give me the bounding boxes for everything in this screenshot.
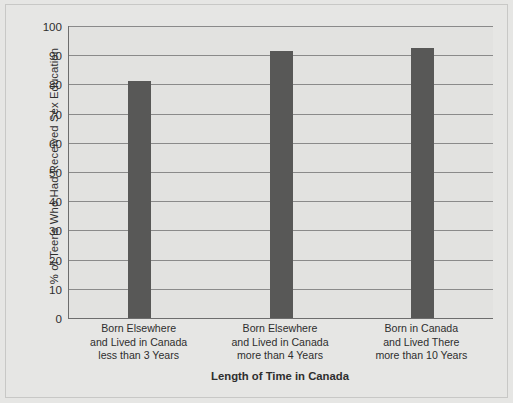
y-tick-label-60: 60 [22,136,62,149]
y-tick-label-30: 30 [22,224,62,237]
x-axis-category-labels: Born Elsewhereand Lived in Canadaless th… [68,322,492,366]
bar-2 [411,48,434,318]
category-label-line: Born Elsewhere [68,322,209,336]
category-label-2: Born in Canadaand Lived Theremore than 1… [351,322,492,366]
y-tick-label-10: 10 [22,282,62,295]
y-tick-label-80: 80 [22,78,62,91]
bar-0 [128,81,151,318]
category-label-1: Born Elsewhereand Lived in Canadamore th… [209,322,350,366]
y-tick-label-100: 100 [22,20,62,33]
category-label-line: more than 10 Years [351,349,492,363]
bar-1 [270,51,293,318]
y-tick-label-0: 0 [22,312,62,325]
y-tick-label-50: 50 [22,166,62,179]
x-axis-title: Length of Time in Canada [68,370,492,382]
gridline-100 [69,26,493,27]
y-tick-label-40: 40 [22,195,62,208]
y-tick-label-70: 70 [22,107,62,120]
y-tick-label-20: 20 [22,253,62,266]
category-label-line: and Lived in Canada [68,336,209,350]
y-tick-label-90: 90 [22,49,62,62]
category-label-0: Born Elsewhereand Lived in Canadaless th… [68,322,209,366]
category-label-line: Born Elsewhere [209,322,350,336]
plot-area [68,26,493,319]
bar-chart-figure: % of Teens Who Had Received Sex Educatio… [0,0,513,403]
category-label-line: and Lived There [351,336,492,350]
category-label-line: Born in Canada [351,322,492,336]
category-label-line: more than 4 Years [209,349,350,363]
y-axis-tick-labels: 0102030405060708090100 [20,26,62,318]
category-label-line: and Lived in Canada [209,336,350,350]
category-label-line: less than 3 Years [68,349,209,363]
